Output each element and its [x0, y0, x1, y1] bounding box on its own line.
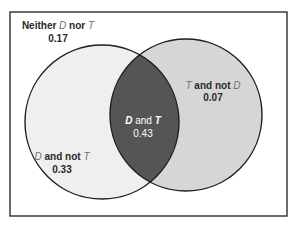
value-d-and-t: 0.43 [133, 128, 153, 139]
label-neither: Neither D nor T [22, 20, 95, 31]
label-d-not-t: D and not T [34, 151, 90, 162]
label-d-and-t: D and T [125, 115, 161, 126]
label-t-not-d: T and not D [185, 80, 240, 91]
value-d-not-t: 0.33 [52, 164, 72, 175]
venn-diagram: Neither D nor T 0.17 T and not D 0.07 D … [0, 0, 297, 226]
value-t-not-d: 0.07 [203, 92, 223, 103]
value-neither: 0.17 [48, 33, 68, 44]
